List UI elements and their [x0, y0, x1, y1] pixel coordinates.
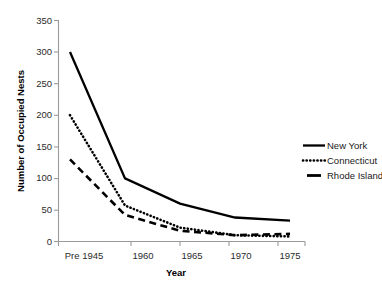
x-tick-label: 1970 [230, 250, 251, 261]
chart-canvas: 350 300 250 200 150 100 50 0 Pre 1945 19… [0, 0, 382, 289]
y-tick-label: 0 [47, 236, 52, 247]
y-tick-label: 350 [36, 15, 52, 26]
y-tick-label: 300 [36, 46, 52, 57]
y-axis-title: Number of Occupied Nests [15, 70, 26, 192]
y-tick-label: 100 [36, 172, 52, 183]
line-chart: 350 300 250 200 150 100 50 0 Pre 1945 19… [0, 0, 382, 289]
legend-label-new-york: New York [327, 140, 367, 151]
x-axis-title: Year [166, 267, 186, 278]
y-tick-label: 150 [36, 141, 52, 152]
x-tick-label: 1975 [279, 250, 300, 261]
legend-label-rhode-island: Rhode Island [327, 170, 382, 181]
x-tick-label: 1965 [181, 250, 202, 261]
series-line-new-york [70, 52, 290, 221]
y-tick-label: 250 [36, 78, 52, 89]
x-tick-label: Pre 1945 [65, 250, 104, 261]
chart-legend: New York Connecticut Rhode Island [303, 140, 382, 181]
legend-label-connecticut: Connecticut [327, 155, 378, 166]
y-tick-label: 200 [36, 109, 52, 120]
x-tick-label: 1960 [132, 250, 153, 261]
y-tick-label: 50 [41, 204, 52, 215]
